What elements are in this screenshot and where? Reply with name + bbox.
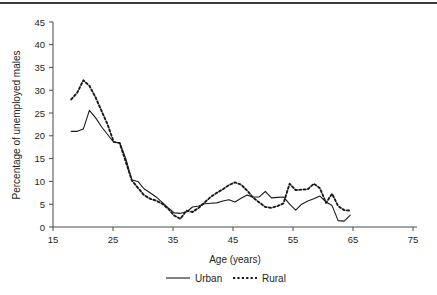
y-tick-label-20: 20 xyxy=(34,130,45,141)
y-tick-label-45: 45 xyxy=(34,17,45,28)
series-line-rural xyxy=(71,80,350,218)
line-chart: 0 5 10 15 20 25 30 35 40 45 Percentage o… xyxy=(0,0,437,295)
legend: Urban Rural xyxy=(166,273,286,284)
y-tick-label-35: 35 xyxy=(34,62,45,73)
figure-container: 0 5 10 15 20 25 30 35 40 45 Percentage o… xyxy=(0,0,437,295)
y-tick-label-40: 40 xyxy=(34,39,45,50)
y-tick-label-0: 0 xyxy=(40,222,45,233)
y-tick-label-30: 30 xyxy=(34,85,45,96)
y-tick-label-15: 15 xyxy=(34,153,45,164)
x-tick-label-15: 15 xyxy=(48,234,59,245)
x-axis-tick-labels: 15 25 35 45 55 65 75 xyxy=(48,234,419,245)
x-axis-title: Age (years) xyxy=(209,254,261,265)
legend-label-urban: Urban xyxy=(195,273,222,284)
y-tick-label-10: 10 xyxy=(34,176,45,187)
series-line-urban xyxy=(71,110,350,221)
x-tick-label-75: 75 xyxy=(408,234,419,245)
legend-label-rural: Rural xyxy=(262,273,286,284)
x-axis-ticks xyxy=(53,227,413,231)
x-tick-label-65: 65 xyxy=(348,234,359,245)
x-tick-label-25: 25 xyxy=(108,234,119,245)
y-axis-ticks xyxy=(49,22,53,227)
y-axis: 0 5 10 15 20 25 30 35 40 45 Percentage o… xyxy=(11,17,53,233)
y-tick-label-25: 25 xyxy=(34,108,45,119)
x-tick-label-35: 35 xyxy=(168,234,179,245)
y-tick-label-5: 5 xyxy=(40,199,45,210)
x-axis: 15 25 35 45 55 65 75 Age (years) xyxy=(48,227,419,265)
y-axis-tick-labels: 0 5 10 15 20 25 30 35 40 45 xyxy=(34,17,45,233)
series-group xyxy=(71,80,350,221)
x-tick-label-45: 45 xyxy=(228,234,239,245)
y-axis-title: Percentage of unemployed males xyxy=(11,51,22,200)
x-tick-label-55: 55 xyxy=(288,234,299,245)
